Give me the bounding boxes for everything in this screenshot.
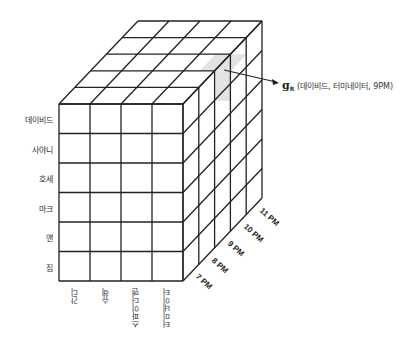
annotation-subscript: R	[290, 85, 295, 92]
data-cube	[0, 0, 420, 348]
row-label-0: 데이비드	[3, 114, 53, 125]
row-label-2: 호세	[3, 173, 53, 184]
annotation-symbol: g	[282, 79, 290, 92]
row-label-5: 짐	[3, 262, 53, 273]
column-label-1: 슈렉	[100, 288, 111, 304]
column-label-0: 간디	[69, 288, 80, 304]
pointer-arrow	[224, 70, 279, 85]
row-label-1: 사야니	[3, 144, 53, 155]
column-label-2: 스파이더맨	[130, 288, 141, 328]
row-label-3: 마크	[3, 203, 53, 214]
annotation-label: (데이비드, 터미네이터, 9PM)	[297, 82, 393, 91]
highlight-annotation: gR (데이비드, 터미네이터, 9PM)	[282, 79, 393, 92]
column-label-3: 터미네이터	[161, 288, 172, 328]
row-label-4: 앤	[3, 232, 53, 243]
